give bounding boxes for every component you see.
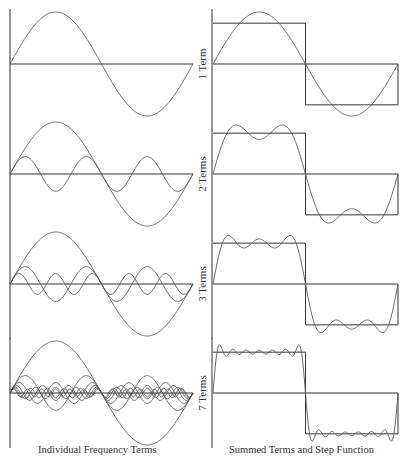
individual-terms-panel — [10, 338, 193, 448]
row-label: 7 Terms — [196, 375, 208, 410]
summed-terms-panel — [212, 119, 398, 229]
individual-terms-panel — [10, 119, 193, 229]
fourier-figure: 1 Term2 Terms3 Terms7 Terms — [0, 0, 412, 467]
individual-terms-panel — [10, 9, 193, 119]
individual-terms-column — [10, 9, 193, 448]
summed-terms-panel — [212, 9, 398, 119]
row-label: 3 Terms — [196, 266, 208, 301]
summed-terms-panel — [212, 229, 398, 339]
right-column-caption: Summed Terms and Step Function — [229, 444, 374, 455]
row-label: 2 Terms — [196, 156, 208, 191]
summed-terms-column: 1 Term2 Terms3 Terms7 Terms — [196, 9, 398, 448]
row-label: 1 Term — [196, 48, 208, 80]
summed-terms-panel — [212, 338, 398, 448]
individual-terms-panel — [10, 229, 193, 339]
left-column-caption: Individual Frequency Terms — [38, 444, 157, 455]
